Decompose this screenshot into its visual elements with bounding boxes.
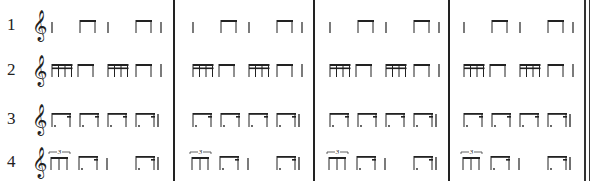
eighth-beam xyxy=(548,64,564,66)
augmentation-dot xyxy=(81,168,83,170)
sixteenth-beam-stub xyxy=(373,116,377,118)
eighth-beam xyxy=(492,20,508,22)
eighth-beam xyxy=(249,64,270,66)
eighth-beam xyxy=(464,64,485,66)
sixteenth-beam-stub xyxy=(235,159,239,161)
eighth-beam xyxy=(220,156,239,158)
augmentation-dot xyxy=(388,125,390,127)
eighth-beam xyxy=(358,20,374,22)
sixteenth-beam-stub xyxy=(479,116,483,118)
eighth-beam xyxy=(329,157,346,159)
eighth-beam xyxy=(386,113,405,115)
triplet-number: 3 xyxy=(198,148,203,156)
sixteenth-beam-stub xyxy=(372,159,376,161)
eighth-beam xyxy=(463,157,480,159)
sixteenth-beam-stub xyxy=(151,159,155,161)
sixteenth-beam-stub xyxy=(563,116,567,118)
sixteenth-beam-stub xyxy=(401,116,405,118)
sixteenth-beam xyxy=(249,68,270,70)
eighth-beam xyxy=(520,64,541,66)
augmentation-dot xyxy=(279,125,281,127)
eighth-beam xyxy=(386,64,407,66)
eighth-beam xyxy=(491,156,510,158)
sixteenth-beam xyxy=(193,68,214,70)
augmentation-dot xyxy=(550,168,552,170)
eighth-beam xyxy=(492,113,511,115)
rhythm-sheet: 1 2 3 4 𝄞 𝄞 𝄞 𝄞 3333 xyxy=(0,0,594,181)
eighth-beam xyxy=(52,113,71,115)
augmentation-dot xyxy=(466,125,468,127)
eighth-beam xyxy=(414,64,430,66)
eighth-beam xyxy=(330,113,349,115)
augmentation-dot xyxy=(332,125,334,127)
sixteenth-beam-stub xyxy=(535,116,539,118)
augmentation-dot xyxy=(251,125,253,127)
sixteenth-beam-stub xyxy=(429,116,433,118)
augmentation-dot xyxy=(54,125,56,127)
augmentation-dot xyxy=(279,168,281,170)
eighth-beam xyxy=(192,157,209,159)
eighth-beam xyxy=(414,113,433,115)
eighth-beam xyxy=(79,156,98,158)
sixteenth-beam-stub xyxy=(123,116,127,118)
eighth-beam xyxy=(193,113,212,115)
sixteenth-beam-stub xyxy=(292,159,296,161)
eighth-beam xyxy=(520,113,539,115)
augmentation-dot xyxy=(494,125,496,127)
eighth-beam xyxy=(52,64,73,66)
eighth-beam xyxy=(414,20,430,22)
augmentation-dot xyxy=(522,125,524,127)
augmentation-dot xyxy=(138,168,140,170)
sixteenth-beam-stub xyxy=(236,116,240,118)
eighth-beam xyxy=(51,157,68,159)
augmentation-dot xyxy=(416,168,418,170)
sixteenth-beam-stub xyxy=(292,116,296,118)
eighth-beam xyxy=(330,64,351,66)
eighth-beam xyxy=(548,156,567,158)
eighth-beam xyxy=(221,20,237,22)
augmentation-dot xyxy=(222,168,224,170)
sixteenth-beam-stub xyxy=(94,159,98,161)
sixteenth-beam-stub xyxy=(507,116,511,118)
sixteenth-beam xyxy=(108,68,129,70)
eighth-beam xyxy=(80,20,96,22)
eighth-beam xyxy=(136,156,155,158)
augmentation-dot xyxy=(223,125,225,127)
triplet-number: 3 xyxy=(335,148,340,156)
sixteenth-beam xyxy=(52,68,73,70)
eighth-beam xyxy=(219,64,235,66)
augmentation-dot xyxy=(138,125,140,127)
eighth-beam xyxy=(108,64,129,66)
eighth-beam xyxy=(136,64,152,66)
eighth-beam xyxy=(277,20,293,22)
eighth-beam xyxy=(277,156,296,158)
eighth-beam xyxy=(356,64,372,66)
triplet-number: 3 xyxy=(57,148,62,156)
eighth-beam xyxy=(80,113,99,115)
eighth-beam xyxy=(136,20,152,22)
eighth-beam xyxy=(357,156,376,158)
augmentation-dot xyxy=(416,125,418,127)
eighth-beam xyxy=(277,113,296,115)
sixteenth-beam-stub xyxy=(506,159,510,161)
sixteenth-beam xyxy=(464,68,485,70)
sixteenth-beam-stub xyxy=(95,116,99,118)
eighth-beam xyxy=(136,113,155,115)
sixteenth-beam-stub xyxy=(208,116,212,118)
eighth-beam xyxy=(78,64,94,66)
augmentation-dot xyxy=(550,125,552,127)
sixteenth-beam xyxy=(330,68,351,70)
sixteenth-beam-stub xyxy=(429,159,433,161)
augmentation-dot xyxy=(110,125,112,127)
sixteenth-beam-stub xyxy=(264,116,268,118)
sixteenth-beam xyxy=(386,68,407,70)
augmentation-dot xyxy=(493,168,495,170)
sixteenth-beam-stub xyxy=(563,159,567,161)
augmentation-dot xyxy=(359,168,361,170)
eighth-beam xyxy=(414,156,433,158)
eighth-beam xyxy=(221,113,240,115)
triplet-number: 3 xyxy=(469,148,474,156)
augmentation-dot xyxy=(195,125,197,127)
eighth-beam xyxy=(249,113,268,115)
eighth-beam xyxy=(108,113,127,115)
